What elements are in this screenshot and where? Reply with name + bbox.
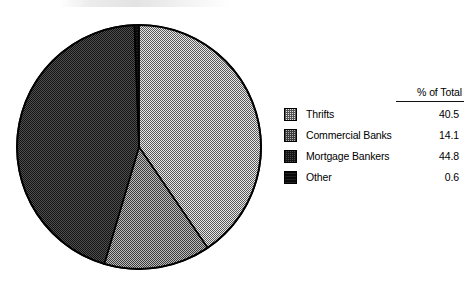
scan-artifact (60, 0, 230, 7)
legend-value: 40.5 (439, 108, 459, 120)
pie-chart (15, 23, 263, 291)
pie-chart-svg (15, 23, 263, 291)
legend-header-underline (396, 101, 464, 102)
legend-label: Other (306, 171, 332, 183)
swatch-other-icon (284, 171, 297, 184)
chart-page: % of Total Thrifts 40.5 Commercial Banks… (0, 0, 468, 295)
legend-label: Thrifts (306, 108, 334, 120)
swatch-mortgage-bankers-icon (284, 150, 297, 163)
legend-label: Commercial Banks (306, 129, 392, 141)
swatch-commercial-banks-icon (284, 129, 297, 142)
legend-item-other: Other 0.6 (283, 168, 465, 189)
legend-label: Mortgage Bankers (306, 150, 389, 162)
legend-item-mortgage-bankers: Mortgage Bankers 44.8 (283, 147, 465, 168)
legend-value: 44.8 (439, 150, 459, 162)
chart-legend: % of Total Thrifts 40.5 Commercial Banks… (283, 86, 465, 189)
legend-header: % of Total (283, 86, 465, 105)
swatch-thrifts-icon (284, 108, 297, 121)
legend-item-thrifts: Thrifts 40.5 (283, 105, 465, 126)
legend-header-label: % of Total (417, 86, 462, 98)
legend-value: 14.1 (439, 129, 459, 141)
legend-item-commercial-banks: Commercial Banks 14.1 (283, 126, 465, 147)
legend-value: 0.6 (445, 171, 459, 183)
